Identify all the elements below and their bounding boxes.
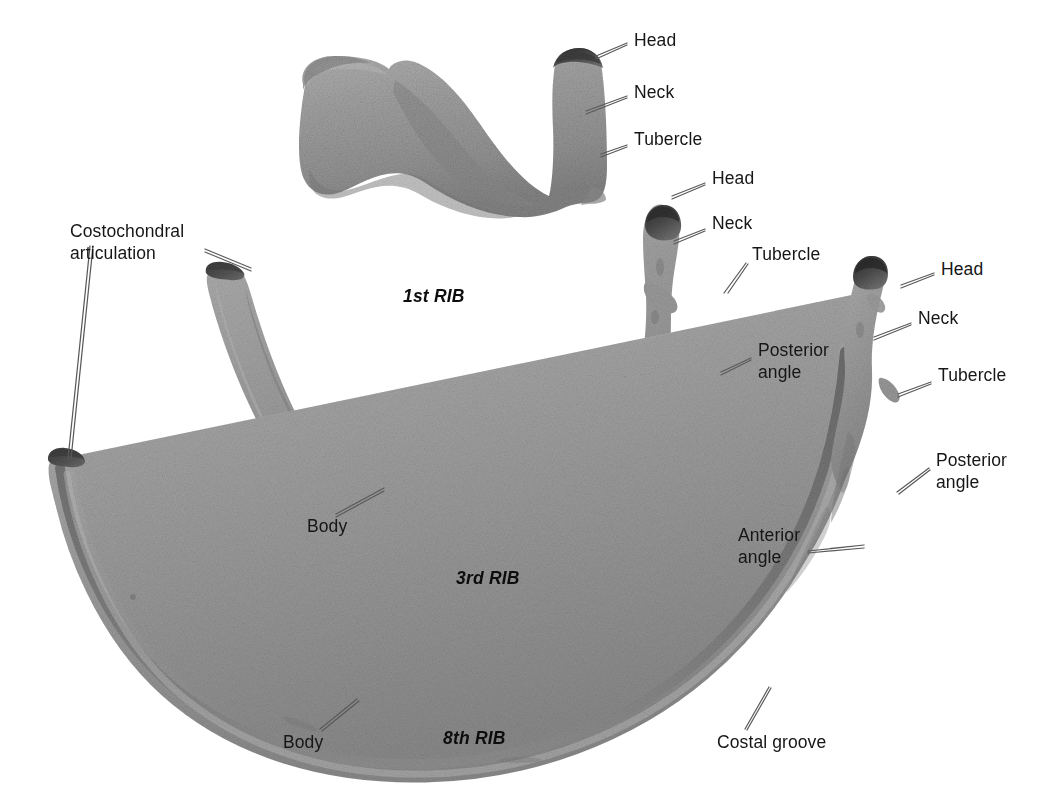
leader-rib1-head <box>596 43 627 56</box>
leader-rib8-neck <box>874 323 911 337</box>
label-rib3-posterior-angle: Posterior angle <box>758 339 829 384</box>
leader-rib8-posterior-b <box>899 470 930 494</box>
caption-3rd-rib: 3rd RIB <box>456 568 520 589</box>
leader-rib8-head-b <box>901 275 934 288</box>
label-rib3-neck: Neck <box>712 212 752 234</box>
leader-costochondral-rib8-b <box>71 246 93 459</box>
leader-rib8-tubercle-b <box>898 384 931 397</box>
label-rib1-head: Head <box>634 29 676 51</box>
leader-rib8-head <box>901 273 934 285</box>
ribs-figure: Head Neck Tubercle Head Neck Tubercle Po… <box>0 0 1039 807</box>
label-rib8-tubercle: Tubercle <box>938 364 1006 386</box>
label-rib8-body: Body <box>283 731 323 753</box>
label-rib1-neck: Neck <box>634 81 674 103</box>
label-rib8-neck: Neck <box>918 307 958 329</box>
label-rib3-body: Body <box>307 515 347 537</box>
leader-rib8-tubercle <box>898 382 931 394</box>
leader-rib3-tubercle-b <box>728 264 748 293</box>
label-rib1-tubercle: Tubercle <box>634 128 702 150</box>
label-costochondral-articulation: Costochondral articulation <box>70 220 184 265</box>
leader-rib1-head-b <box>596 45 627 59</box>
rib-8-bone <box>48 256 900 774</box>
rib-8-tubercle <box>879 378 900 403</box>
label-rib8-anterior-angle: Anterior angle <box>738 524 800 569</box>
leader-costochondral-rib8 <box>68 246 90 459</box>
leader-costal-groove-b <box>747 688 771 730</box>
label-rib3-head: Head <box>712 167 754 189</box>
label-costal-groove: Costal groove <box>717 731 826 753</box>
leader-rib8-posterior <box>897 468 929 492</box>
label-rib3-tubercle: Tubercle <box>752 243 820 265</box>
leader-rib3-head <box>672 183 705 196</box>
caption-1st-rib: 1st RIB <box>403 286 465 307</box>
leader-rib3-tubercle <box>724 263 746 293</box>
label-rib8-posterior-angle: Posterior angle <box>936 449 1007 494</box>
leader-rib3-head-b <box>672 185 705 199</box>
leader-rib8-neck-b <box>874 325 911 340</box>
leader-costal-groove <box>745 687 769 729</box>
label-rib8-head: Head <box>941 258 983 280</box>
caption-8th-rib: 8th RIB <box>443 728 506 749</box>
ribs-illustration <box>0 0 1039 807</box>
rib-1-bone <box>299 48 607 219</box>
